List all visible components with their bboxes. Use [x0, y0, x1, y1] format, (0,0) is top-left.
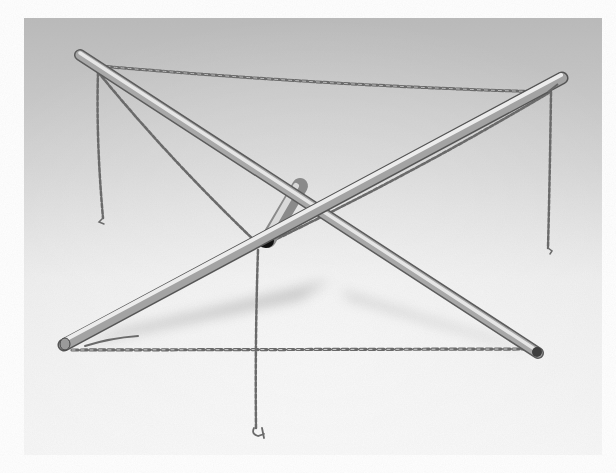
product-photo: [0, 0, 616, 473]
